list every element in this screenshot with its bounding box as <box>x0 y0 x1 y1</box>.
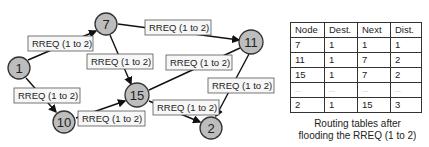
node-1: 1 <box>8 57 30 79</box>
svg-text:10: 10 <box>57 115 71 130</box>
node-10: 10 <box>53 111 75 133</box>
edge-label: RREQ (1 to 2) <box>145 20 211 35</box>
edge-label: RREQ (1 to 2) <box>14 88 80 103</box>
cell: 1 <box>325 53 358 68</box>
header-node: Node <box>291 23 325 38</box>
cell: 1 <box>358 38 391 53</box>
edge-label: RREQ (1 to 2) <box>87 54 153 69</box>
svg-text:RREQ (1 to 2): RREQ (1 to 2) <box>82 113 142 124</box>
node-2: 2 <box>200 117 222 139</box>
svg-text:1: 1 <box>15 61 22 76</box>
cell: 2 <box>391 68 422 83</box>
svg-text:7: 7 <box>102 17 109 32</box>
cell: 7 <box>291 38 325 53</box>
header-dest: Dest. <box>325 23 358 38</box>
cell: 1 <box>325 68 358 83</box>
node-15: 15 <box>125 83 149 107</box>
svg-text:RREQ (1 to 2): RREQ (1 to 2) <box>212 80 272 91</box>
routing-table: Node Dest. Next Dist. 7 1 1 1 11 1 7 2 1… <box>290 22 422 113</box>
svg-text:RREQ (1 to 2): RREQ (1 to 2) <box>32 38 92 49</box>
caption-line-2: flooding the RREQ (1 to 2) <box>290 130 425 142</box>
caption-line-1: Routing tables after <box>290 118 425 130</box>
cell: ... <box>291 83 325 98</box>
cell: 15 <box>291 68 325 83</box>
svg-text:RREQ (1 to 2): RREQ (1 to 2) <box>18 90 78 101</box>
cell: ... <box>391 83 422 98</box>
node-7: 7 <box>95 13 117 35</box>
cell: 1 <box>391 38 422 53</box>
cell: 2 <box>291 98 325 113</box>
edge-label: RREQ (1 to 2) <box>78 111 145 126</box>
node-11: 11 <box>239 30 263 54</box>
table-caption: Routing tables after flooding the RREQ (… <box>290 118 425 142</box>
cell: ... <box>325 83 358 98</box>
cell: 1 <box>325 98 358 113</box>
cell: 3 <box>391 98 422 113</box>
table-row: 11 1 7 2 <box>291 53 422 68</box>
svg-text:RREQ (1 to 2): RREQ (1 to 2) <box>91 56 151 67</box>
svg-text:RREQ (1 to 2): RREQ (1 to 2) <box>170 57 230 68</box>
header-next: Next <box>358 23 391 38</box>
svg-text:2: 2 <box>207 121 214 136</box>
cell: 7 <box>358 53 391 68</box>
edge-label: RREQ (1 to 2) <box>166 55 232 70</box>
cell: ... <box>358 83 391 98</box>
header-dist: Dist. <box>391 23 422 38</box>
edge-label: RREQ (1 to 2) <box>153 100 219 115</box>
table-header-row: Node Dest. Next Dist. <box>291 23 422 38</box>
table-row: 15 1 7 2 <box>291 68 422 83</box>
cell: 2 <box>391 53 422 68</box>
edge-label: RREQ (1 to 2) <box>28 36 93 51</box>
cell: 7 <box>358 68 391 83</box>
svg-text:RREQ (1 to 2): RREQ (1 to 2) <box>149 22 209 33</box>
svg-text:15: 15 <box>130 88 144 103</box>
table-row: 2 1 15 3 <box>291 98 422 113</box>
cell: 11 <box>291 53 325 68</box>
svg-text:RREQ (1 to 2): RREQ (1 to 2) <box>157 102 217 113</box>
cell: 15 <box>358 98 391 113</box>
edge-label: RREQ (1 to 2) <box>208 78 274 93</box>
cell: 1 <box>325 38 358 53</box>
svg-text:11: 11 <box>244 35 258 50</box>
table-row-ellipsis: ... ... ... ... <box>291 83 422 98</box>
table-row: 7 1 1 1 <box>291 38 422 53</box>
